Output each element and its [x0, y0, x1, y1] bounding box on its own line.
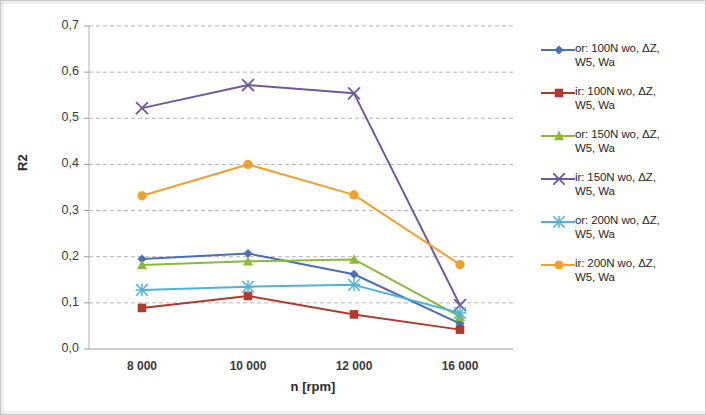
legend-marker-icon: [541, 129, 575, 143]
legend-label-line2: W5, Wa: [575, 98, 656, 112]
x-axis-title: n [rpm]: [233, 379, 393, 394]
legend-label-line2: W5, Wa: [575, 184, 656, 198]
series-line-4: [142, 285, 460, 313]
legend-label-line2: W5, Wa: [575, 227, 660, 241]
x-axis-tick-label: 16 000: [412, 359, 508, 373]
y-axis-tick-label: 0,5: [31, 110, 79, 124]
legend-label-line1: or: 150N wo, ΔZ,: [575, 127, 660, 141]
data-point-marker: [137, 191, 146, 200]
data-point-marker: [350, 310, 359, 319]
data-point-marker: [136, 284, 149, 297]
legend-item[interactable]: ir: 200N wo, ΔZ,W5, Wa: [541, 256, 703, 284]
x-axis-tick-label: 12 000: [306, 359, 402, 373]
legend-marker-icon: [541, 43, 575, 57]
legend-item[interactable]: or: 150N wo, ΔZ,W5, Wa: [541, 127, 703, 155]
legend-label-line1: ir: 100N wo, ΔZ,: [575, 84, 656, 98]
legend-item-label: ir: 150N wo, ΔZ,W5, Wa: [575, 170, 656, 198]
data-point-marker: [243, 160, 252, 169]
data-point-marker: [349, 190, 358, 199]
y-axis-tick-label: 0,0: [31, 341, 79, 355]
legend-marker-icon: [541, 215, 575, 229]
legend-item[interactable]: ir: 150N wo, ΔZ,W5, Wa: [541, 170, 703, 198]
data-point-marker: [349, 270, 358, 279]
legend-item[interactable]: ir: 100N wo, ΔZ,W5, Wa: [541, 84, 703, 112]
y-axis-title: R2: [15, 154, 30, 171]
legend-marker-icon: [541, 86, 575, 100]
series-line-5: [142, 164, 460, 264]
chart-container: R2 n [rpm] 0,00,10,20,30,40,50,60,7 8 00…: [0, 0, 706, 415]
legend-label-line2: W5, Wa: [575, 141, 660, 155]
data-point-marker: [455, 260, 464, 269]
legend-item[interactable]: or: 100N wo, ΔZ,W5, Wa: [541, 41, 703, 69]
data-point-marker: [242, 280, 255, 293]
y-axis-tick-label: 0,1: [31, 295, 79, 309]
legend-marker-icon: [541, 258, 575, 272]
legend-item-label: ir: 100N wo, ΔZ,W5, Wa: [575, 84, 656, 112]
data-point-marker: [454, 307, 467, 320]
legend-item-label: or: 200N wo, ΔZ,W5, Wa: [575, 213, 660, 241]
data-point-marker: [456, 325, 465, 334]
x-axis-tick-label: 10 000: [200, 359, 296, 373]
legend-label-line1: or: 100N wo, ΔZ,: [575, 41, 660, 55]
legend-item[interactable]: or: 200N wo, ΔZ,W5, Wa: [541, 213, 703, 241]
legend-marker-icon: [541, 172, 575, 186]
y-axis-tick-label: 0,7: [31, 18, 79, 32]
y-axis-tick-label: 0,4: [31, 156, 79, 170]
data-point-marker: [138, 304, 147, 313]
legend-label-line1: ir: 200N wo, ΔZ,: [575, 256, 656, 270]
y-axis-tick-label: 0,2: [31, 249, 79, 263]
legend-label-line2: W5, Wa: [575, 55, 660, 69]
chart-legend: or: 100N wo, ΔZ,W5, Wair: 100N wo, ΔZ,W5…: [541, 41, 703, 299]
legend-label-line1: ir: 150N wo, ΔZ,: [575, 170, 656, 184]
y-axis-tick-label: 0,6: [31, 64, 79, 78]
legend-label-line2: W5, Wa: [575, 270, 656, 284]
x-axis-tick-label: 8 000: [94, 359, 190, 373]
legend-item-label: ir: 200N wo, ΔZ,W5, Wa: [575, 256, 656, 284]
data-point-marker: [348, 278, 361, 291]
legend-item-label: or: 100N wo, ΔZ,W5, Wa: [575, 41, 660, 69]
legend-label-line1: or: 200N wo, ΔZ,: [575, 213, 660, 227]
legend-item-label: or: 150N wo, ΔZ,W5, Wa: [575, 127, 660, 155]
y-axis-tick-label: 0,3: [31, 203, 79, 217]
